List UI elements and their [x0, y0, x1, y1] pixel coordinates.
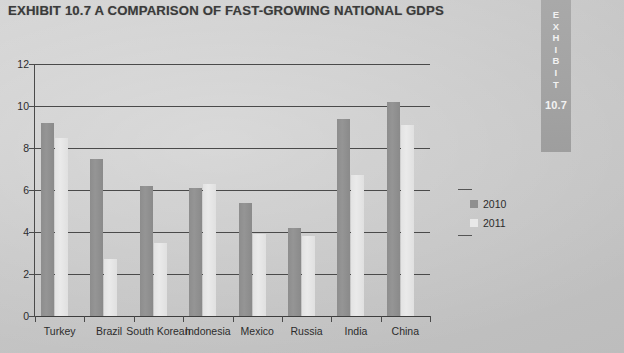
y-axis-tick-mark — [29, 274, 34, 275]
legend-rule-top — [458, 189, 472, 190]
bar-china-2010 — [387, 102, 400, 316]
legend-label-2010: 2010 — [483, 198, 506, 210]
bar-south-korean-2011 — [154, 243, 167, 317]
y-axis-tick-mark — [29, 232, 34, 233]
y-axis-tick-label: 0 — [3, 310, 29, 322]
y-axis-tick-label: 6 — [3, 184, 29, 196]
bar-groups — [35, 64, 430, 316]
y-axis-tick-label: 10 — [3, 100, 29, 112]
bar-mexico-2010 — [239, 203, 252, 316]
chart-legend: 2010 2011 — [470, 194, 534, 232]
exhibit-tab-letter: I — [555, 67, 558, 79]
y-axis-tick-label: 8 — [3, 142, 29, 154]
legend-swatch-2011-icon — [470, 219, 478, 227]
bar-china-2011 — [401, 125, 414, 316]
gdp-bar-chart: 024681012 TurkeyBrazilSouth KoreanIndone… — [0, 55, 545, 353]
exhibit-side-tab: EXHIBIT 10.7 — [541, 0, 571, 152]
exhibit-tab-letter: H — [552, 32, 559, 44]
exhibit-tab-word: EXHIBIT — [552, 9, 559, 90]
x-axis-tick-mark — [430, 316, 431, 322]
x-axis-label-china: China — [370, 325, 440, 338]
bar-russia-2010 — [288, 228, 301, 316]
y-axis-tick-label: 4 — [3, 226, 29, 238]
bar-group — [282, 64, 331, 316]
x-axis-tick-mark — [84, 316, 85, 322]
exhibit-tab-letter: T — [553, 79, 559, 91]
y-axis-tick-mark — [29, 148, 34, 149]
x-axis: TurkeyBrazilSouth KoreanIndonesiaMexicoR… — [35, 316, 430, 353]
x-axis-tick-mark — [331, 316, 332, 322]
exhibit-tab-letter: E — [553, 9, 560, 21]
bar-group — [331, 64, 380, 316]
legend-item-2011: 2011 — [470, 213, 534, 232]
x-axis-tick-mark — [233, 316, 234, 322]
exhibit-tab-letter: I — [555, 44, 558, 56]
y-axis-tick-label: 12 — [3, 58, 29, 70]
bar-indonesia-2011 — [203, 184, 216, 316]
bar-group — [233, 64, 282, 316]
bar-group — [84, 64, 133, 316]
y-axis-tick-mark — [29, 190, 34, 191]
bar-brazil-2010 — [90, 159, 103, 317]
plot-area — [35, 64, 430, 316]
exhibit-tab-letter: X — [553, 21, 560, 33]
y-axis: 024681012 — [0, 64, 29, 316]
page-title: EXHIBIT 10.7 A COMPARISON OF FAST-GROWIN… — [8, 2, 508, 19]
legend-rule-bottom — [458, 235, 472, 236]
bar-india-2010 — [337, 119, 350, 316]
bar-group — [35, 64, 84, 316]
bar-indonesia-2010 — [189, 188, 202, 316]
y-axis-tick-mark — [29, 64, 34, 65]
exhibit-tab-letter: B — [552, 55, 559, 67]
x-axis-tick-mark — [381, 316, 382, 322]
y-axis-tick-mark — [29, 316, 34, 317]
bar-turkey-2011 — [55, 138, 68, 317]
y-axis-tick-mark — [29, 106, 34, 107]
x-axis-tick-mark — [183, 316, 184, 322]
bar-mexico-2011 — [253, 234, 266, 316]
x-axis-tick-mark — [282, 316, 283, 322]
bar-brazil-2011 — [104, 259, 117, 316]
bar-india-2011 — [351, 175, 364, 316]
bar-group — [134, 64, 183, 316]
legend-item-2010: 2010 — [470, 194, 534, 213]
bar-turkey-2010 — [41, 123, 54, 316]
x-axis-tick-mark — [35, 316, 36, 322]
x-axis-tick-mark — [134, 316, 135, 322]
bar-group — [183, 64, 232, 316]
legend-swatch-2010-icon — [470, 200, 478, 208]
legend-label-2011: 2011 — [483, 217, 506, 229]
bar-russia-2011 — [302, 236, 315, 316]
bar-south-korean-2010 — [140, 186, 153, 316]
bar-group — [381, 64, 430, 316]
y-axis-tick-label: 2 — [3, 268, 29, 280]
exhibit-tab-number: 10.7 — [545, 99, 567, 111]
